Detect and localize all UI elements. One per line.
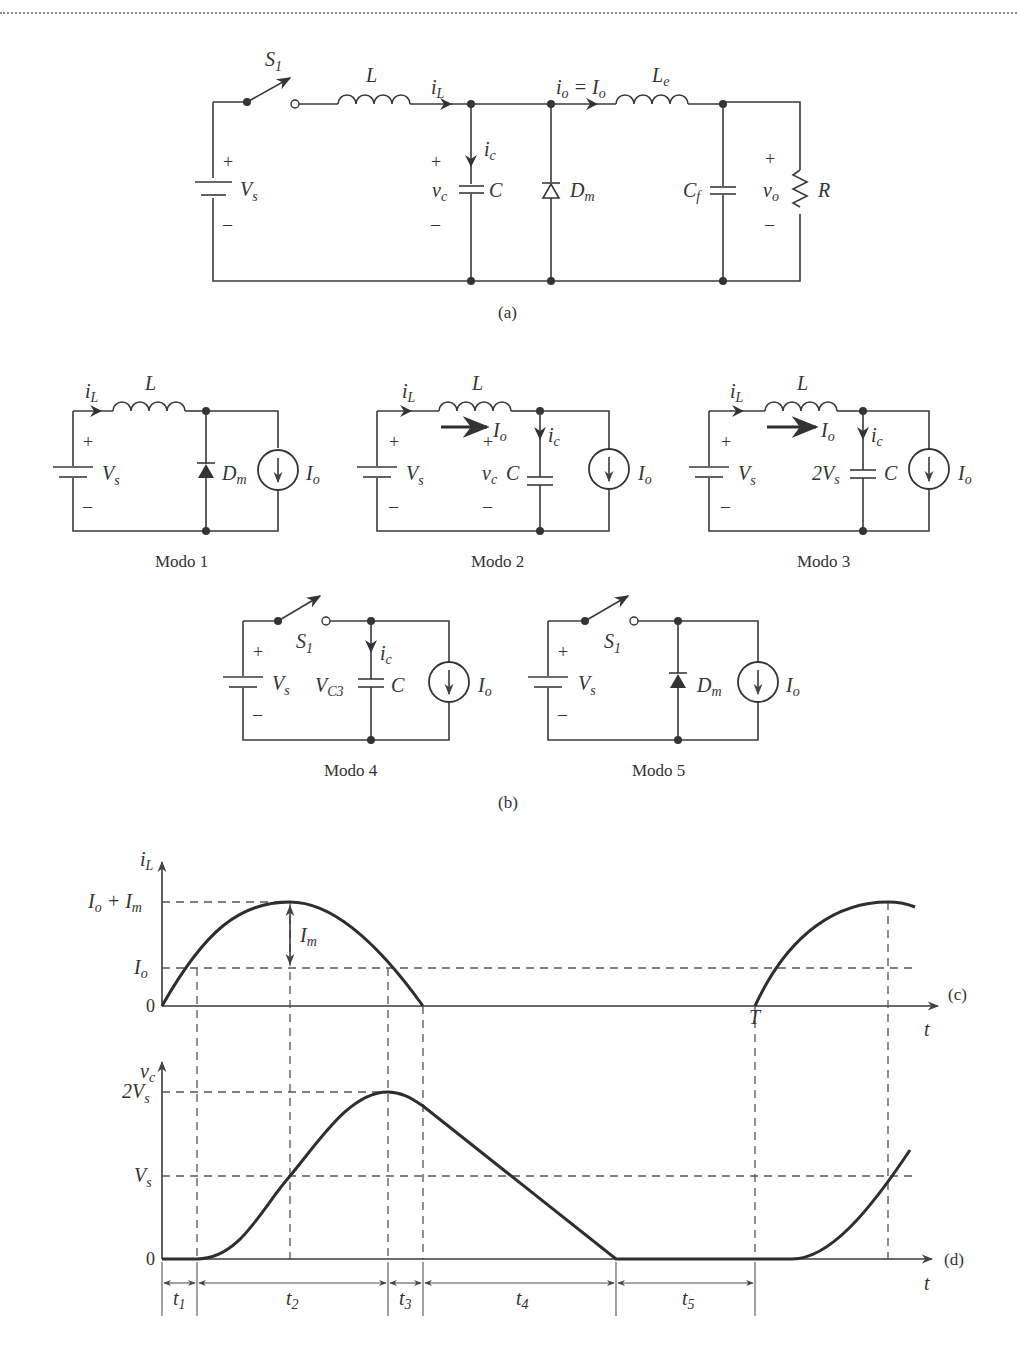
svg-text:t: t <box>924 1018 930 1040</box>
svg-text:2Vs: 2Vs <box>122 1080 150 1106</box>
svg-text:iL: iL <box>730 380 744 405</box>
mode-1-label: Modo 1 <box>155 552 208 571</box>
svg-text:Vs: Vs <box>272 672 290 698</box>
svg-text:iL: iL <box>431 76 445 101</box>
svg-text:Io: Io <box>133 956 148 981</box>
resistor-R-icon <box>793 170 807 207</box>
svg-text:+: + <box>223 152 233 172</box>
mode-5-label: Modo 5 <box>632 761 685 780</box>
svg-text:+: + <box>389 432 399 452</box>
svg-text:–: – <box>482 496 493 516</box>
svg-text:ic: ic <box>484 138 497 163</box>
svg-text:0: 0 <box>146 996 155 1016</box>
waveform-c-il: iL Io + Im Im Io 0 T t (c) <box>87 848 967 1259</box>
inductor-L <box>338 95 410 104</box>
svg-text:Io: Io <box>957 462 972 487</box>
svg-text:Io: Io <box>492 419 507 444</box>
svg-text:io = Io: io = Io <box>556 76 606 101</box>
svg-text:ic: ic <box>871 424 884 449</box>
svg-text:Vs: Vs <box>102 462 120 488</box>
svg-text:+: + <box>253 642 263 662</box>
svg-text:Vs: Vs <box>240 178 258 204</box>
svg-text:Dm: Dm <box>569 179 595 204</box>
svg-text:Io: Io <box>305 462 320 487</box>
svg-text:+: + <box>558 642 568 662</box>
svg-text:–: – <box>82 496 93 516</box>
svg-text:t5: t5 <box>682 1287 695 1312</box>
diode-Dm-icon <box>198 464 214 478</box>
svg-text:S1: S1 <box>265 48 282 74</box>
svg-text:0: 0 <box>146 1249 155 1269</box>
svg-text:S1: S1 <box>296 630 313 656</box>
svg-text:Io + Im: Io + Im <box>87 890 142 915</box>
svg-text:+: + <box>765 149 775 169</box>
svg-text:t: t <box>924 1272 930 1294</box>
svg-text:+: + <box>431 152 441 172</box>
svg-text:vc: vc <box>482 462 498 487</box>
svg-text:t4: t4 <box>516 1287 529 1312</box>
resonant-converter-figure: S1 L iL ic io = Io Le + Vs – + vc – C Dm… <box>0 0 1017 1345</box>
caption-c: (c) <box>948 985 967 1004</box>
svg-text:iL: iL <box>140 848 154 873</box>
mode-5-circuit: S1 + Vs – Dm Io Modo 5 <box>528 596 800 780</box>
circuit-a: S1 L iL ic io = Io Le + Vs – + vc – C Dm… <box>195 48 830 322</box>
svg-text:Vs: Vs <box>578 672 596 698</box>
svg-text:C: C <box>506 462 520 484</box>
svg-text:L: L <box>144 372 156 394</box>
mode-2-circuit: iL L Io + ic + Vs – vc C – Io Modo 2 <box>357 372 652 571</box>
caption-a: (a) <box>498 303 517 322</box>
svg-text:+: + <box>83 432 93 452</box>
svg-text:Vs: Vs <box>134 1164 152 1190</box>
svg-text:–: – <box>388 496 399 516</box>
svg-text:Vs: Vs <box>406 462 424 488</box>
switch-contact <box>291 100 299 108</box>
svg-text:t3: t3 <box>399 1287 412 1312</box>
svg-text:+: + <box>483 432 493 452</box>
svg-text:–: – <box>252 704 263 724</box>
svg-text:–: – <box>557 704 568 724</box>
mode-2-label: Modo 2 <box>471 552 524 571</box>
svg-text:L: L <box>365 64 377 86</box>
svg-text:C: C <box>391 674 405 696</box>
svg-text:Im: Im <box>299 924 317 949</box>
svg-text:–: – <box>764 214 775 234</box>
svg-text:Cf: Cf <box>683 179 702 204</box>
svg-text:C: C <box>489 179 503 201</box>
svg-text:iL: iL <box>85 380 99 405</box>
svg-text:Io: Io <box>637 462 652 487</box>
caption-d: (d) <box>944 1250 964 1269</box>
svg-text:Dm: Dm <box>696 674 722 699</box>
svg-text:Io: Io <box>820 419 835 444</box>
mode-4-circuit: S1 ic + Vs – VC3 C Io Modo 4 <box>223 596 492 780</box>
svg-text:Io: Io <box>477 674 492 699</box>
switch-blade <box>247 78 290 102</box>
svg-text:T: T <box>749 1006 762 1028</box>
svg-text:S1: S1 <box>604 630 621 656</box>
svg-text:ic: ic <box>548 424 561 449</box>
svg-text:2Vs: 2Vs <box>812 462 840 487</box>
svg-text:–: – <box>430 214 441 234</box>
svg-text:L: L <box>796 372 808 394</box>
il-pulse-1 <box>162 902 423 1006</box>
svg-text:R: R <box>817 179 830 201</box>
svg-text:t1: t1 <box>173 1287 186 1312</box>
svg-text:+: + <box>721 432 731 452</box>
svg-text:Io: Io <box>785 674 800 699</box>
svg-text:Vs: Vs <box>738 462 756 488</box>
svg-text:–: – <box>720 496 731 516</box>
svg-text:–: – <box>222 214 233 234</box>
svg-text:Le: Le <box>651 64 669 89</box>
diode-Dm-icon <box>543 184 559 198</box>
inductor-Le <box>616 95 688 104</box>
svg-text:Dm: Dm <box>221 462 247 487</box>
svg-text:t2: t2 <box>286 1287 299 1312</box>
svg-text:vo: vo <box>763 179 779 204</box>
svg-text:VC3: VC3 <box>315 674 344 699</box>
svg-text:vc: vc <box>432 179 448 204</box>
svg-text:iL: iL <box>402 380 416 405</box>
svg-text:L: L <box>471 372 483 394</box>
mode-3-circuit: iL L Io ic + Vs – 2Vs C Io Modo 3 <box>689 372 972 571</box>
mode-3-label: Modo 3 <box>797 552 850 571</box>
waveform-d-vc: vc 2Vs Vs 0 t (d) t1 t2 t3 t4 t5 <box>122 1060 964 1316</box>
svg-text:C: C <box>884 462 898 484</box>
